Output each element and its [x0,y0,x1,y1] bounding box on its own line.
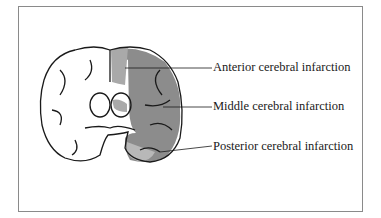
label-posterior: Posterior cerebral infarction [213,139,353,154]
label-middle: Middle cerebral infarction [213,99,344,114]
label-anterior: Anterior cerebral infarction [213,60,350,75]
